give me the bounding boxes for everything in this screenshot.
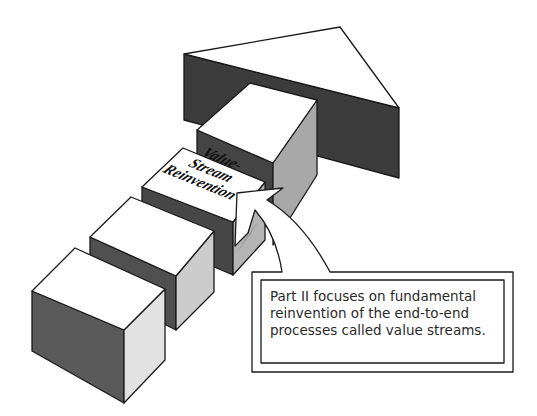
callout [235,188,513,372]
callout-line-1: Part II focuses on fundamental [270,288,510,305]
callout-line-2: reinvention of the end-to-end [270,305,510,322]
callout-line-3: processes called value streams. [270,322,510,339]
callout-text: Part II focuses on fundamental reinventi… [270,288,510,339]
block-arrow-diagram: Value- Stream Reinvention [0,0,537,416]
